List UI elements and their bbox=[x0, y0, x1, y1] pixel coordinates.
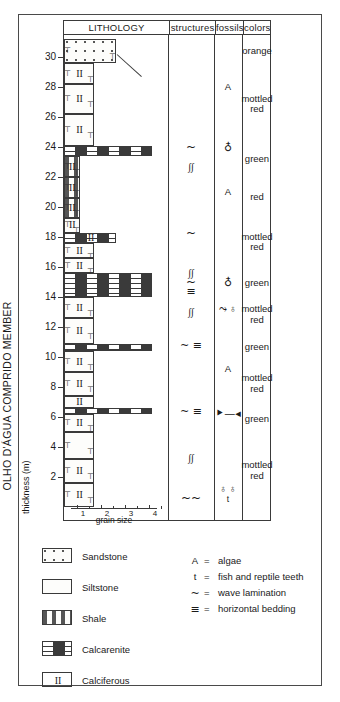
grain-size-minor-tick bbox=[137, 506, 138, 509]
legend-label-calcarenite: Calcarenite bbox=[82, 645, 130, 655]
lithology-bed-calcarenite bbox=[64, 344, 152, 351]
legend-item-shale: Shale bbox=[42, 610, 182, 627]
color-label: mottled red bbox=[241, 94, 272, 115]
axis-tick bbox=[58, 147, 63, 148]
legend-item-calciferous: IICalciferous bbox=[42, 672, 182, 689]
bedding-tick: ⊤ bbox=[64, 163, 71, 171]
color-label: orange bbox=[242, 46, 272, 56]
color-label: green bbox=[245, 413, 269, 423]
symbol-legend-equals: = bbox=[204, 572, 210, 582]
bedding-tick: ⊤ bbox=[64, 419, 71, 427]
bedding-tick: ⊤ bbox=[87, 497, 94, 505]
bedding-tick: ⊤ bbox=[64, 358, 71, 366]
bedding-tick: ⊤ bbox=[87, 364, 94, 372]
bedding-tick: ⊤ bbox=[87, 425, 94, 433]
grain-size-ruler: 1234 bbox=[71, 508, 157, 509]
legend-label-sandstone: Sandstone bbox=[82, 552, 127, 562]
bedding-tick: ⊤ bbox=[87, 253, 94, 261]
axis-tick bbox=[58, 447, 63, 448]
bedding-tick: ⊤ bbox=[64, 247, 71, 255]
structure-symbol-wave-lamination: ~~ bbox=[181, 492, 201, 504]
axis-tick-label: 16 bbox=[45, 262, 56, 272]
axis-tick-label: 24 bbox=[45, 142, 56, 152]
axis-tick-label: 12 bbox=[45, 322, 56, 332]
grain-size-minor-tick bbox=[89, 506, 90, 509]
bedding-tick: ⊤ bbox=[64, 126, 71, 134]
color-label: mottled red bbox=[241, 373, 272, 394]
calciferous-marker: II bbox=[76, 357, 83, 367]
axis-title-thickness: thickness (m) bbox=[22, 460, 31, 514]
symbol-legend-glyph: ~ bbox=[188, 588, 202, 599]
bedding-tick: ⊤ bbox=[73, 169, 80, 177]
bedding-tick: ⊤ bbox=[64, 327, 71, 335]
calciferous-marker: II bbox=[76, 379, 83, 389]
grain-size-tick bbox=[125, 505, 126, 509]
axis-tick-label: 10 bbox=[45, 352, 56, 362]
symbol-legend-label: algae bbox=[218, 556, 241, 566]
bedding-tick: ⊤ bbox=[64, 491, 71, 499]
axis-tick bbox=[58, 297, 63, 298]
symbol-legend-equals: = bbox=[204, 604, 210, 614]
bedding-tick: ⊤ bbox=[87, 101, 94, 109]
calciferous-marker: II bbox=[76, 326, 83, 336]
bedding-tick: ⊤ bbox=[73, 190, 80, 198]
chart-area: LITHOLOGY structures fossils colors 2468… bbox=[27, 20, 271, 521]
axis-tick bbox=[58, 417, 63, 418]
structure-symbol-cross-lamination: ∫∫ bbox=[188, 307, 193, 317]
axis-tick-label: 30 bbox=[45, 52, 56, 62]
calciferous-marker: II bbox=[76, 69, 83, 79]
axis-tick-label: 2 bbox=[50, 472, 56, 482]
structure-symbol-cross-lamination: ∫∫ bbox=[188, 162, 193, 172]
axis-tick-label: 18 bbox=[45, 232, 56, 242]
fossil-symbol-bone-and-shell: ⤳ ♁ bbox=[219, 304, 237, 314]
axis-tick bbox=[58, 87, 63, 88]
bedding-tick: ⊤ bbox=[64, 221, 71, 229]
fossil-symbol-shell-shell-teeth: ♁ ♁t bbox=[219, 484, 236, 504]
symbol-legend-label: horizontal bedding bbox=[218, 604, 296, 614]
calciferous-marker: II bbox=[76, 397, 83, 407]
structure-symbol-wave-lamination: ~ bbox=[186, 227, 196, 239]
fossil-symbol-algae: A bbox=[225, 187, 231, 197]
axis-tick bbox=[58, 267, 63, 268]
axis-tick bbox=[58, 477, 63, 478]
axis-tick-label: 14 bbox=[45, 292, 56, 302]
calciferous-marker: II bbox=[76, 303, 83, 313]
calciferous-marker: II bbox=[76, 261, 83, 271]
bedding-tick: ⊤ bbox=[87, 132, 94, 140]
structure-symbol-horizontal-bedding: ≡ bbox=[186, 286, 195, 297]
symbol-legend-glyph: ≡ bbox=[188, 604, 202, 615]
header-colors: colors bbox=[244, 21, 270, 34]
legend-label-siltstone: Siltstone bbox=[82, 583, 118, 593]
bedding-tick: ⊤ bbox=[64, 467, 71, 475]
axis-tick-label: 28 bbox=[45, 82, 56, 92]
grain-size-minor-tick bbox=[113, 506, 114, 509]
axis-tick-label: 20 bbox=[45, 202, 56, 212]
bedding-tick: ⊤ bbox=[87, 76, 94, 84]
bedding-tick: ⊤ bbox=[87, 386, 94, 394]
member-name-label: OLHO D'ÁGUA COMPRIDO MEMBER bbox=[2, 301, 13, 490]
axis-tick bbox=[58, 237, 63, 238]
axis-tick-label: 26 bbox=[45, 112, 56, 122]
calciferous-marker: II bbox=[76, 94, 83, 104]
column-table-frame bbox=[63, 20, 271, 521]
symbol-legend-glyph: t bbox=[188, 572, 202, 582]
bedding-tick: ⊤ bbox=[73, 210, 80, 218]
bedding-tick: ⊤ bbox=[87, 448, 94, 456]
column-divider-fossils bbox=[214, 35, 215, 521]
bedding-tick: ⊤ bbox=[64, 262, 71, 270]
legend-swatch-calciferous: II bbox=[42, 672, 72, 687]
fossil-symbol-shell: ♁ bbox=[224, 277, 232, 288]
bedding-tick: ⊤ bbox=[64, 204, 71, 212]
legend-swatch-calcarenite bbox=[42, 641, 72, 656]
legend-item-calcarenite: Calcarenite bbox=[42, 641, 182, 658]
bedding-tick: ⊤ bbox=[87, 268, 94, 276]
fossil-symbol-algae: A bbox=[225, 82, 231, 92]
calciferous-glyph: II bbox=[43, 673, 72, 687]
header-fossils: fossils bbox=[216, 21, 243, 34]
bedding-tick: ⊤ bbox=[87, 473, 94, 481]
grain-size-tick bbox=[77, 505, 78, 509]
calciferous-marker: II bbox=[76, 490, 83, 500]
stratigraphic-column-figure: LITHOLOGY structures fossils colors 2468… bbox=[0, 0, 340, 702]
legend-swatch-shale bbox=[42, 610, 72, 625]
bedding-tick: ⊤ bbox=[64, 47, 71, 55]
